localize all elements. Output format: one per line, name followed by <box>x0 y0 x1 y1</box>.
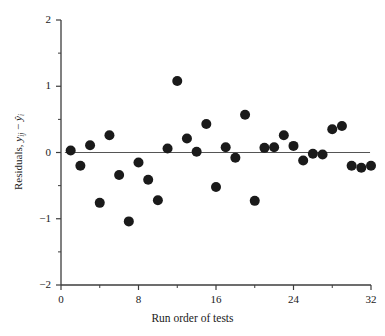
data-point <box>259 143 269 153</box>
y-axis-title-lead: Residuals, <box>12 142 24 190</box>
x-axis-tick-label: 8 <box>127 293 151 305</box>
data-point <box>221 142 231 152</box>
data-point <box>75 161 85 171</box>
x-axis-title: Run order of tests <box>0 312 385 324</box>
residual-scatter-plot-figure: −2−101208162432 Residuals, yij − ŷi Run… <box>0 0 385 336</box>
data-point <box>114 170 124 180</box>
data-point <box>289 141 299 151</box>
x-axis-tick-label: 0 <box>49 293 73 305</box>
data-point <box>240 110 250 120</box>
y-axis-title: Residuals, yij − ŷi <box>2 0 38 300</box>
plot-canvas <box>0 0 385 336</box>
data-points-group <box>66 76 376 226</box>
data-point <box>279 130 289 140</box>
data-point <box>201 119 211 129</box>
data-point <box>308 149 318 159</box>
x-axis-tick-label: 24 <box>282 293 306 305</box>
data-point <box>211 182 221 192</box>
data-point <box>124 216 134 226</box>
data-point <box>250 196 260 206</box>
y-axis-title-sub1: ij <box>17 133 26 137</box>
data-point <box>298 155 308 165</box>
data-point <box>104 130 114 140</box>
data-point <box>153 195 163 205</box>
data-point <box>95 198 105 208</box>
data-point <box>163 144 173 154</box>
data-point <box>143 175 153 185</box>
data-point <box>327 124 337 134</box>
data-point <box>192 147 202 157</box>
data-point <box>318 149 328 159</box>
y-axis-title-text: Residuals, yij − ŷi <box>12 114 26 190</box>
data-point <box>85 140 95 150</box>
y-axis-title-minus: − <box>12 121 24 130</box>
data-point <box>66 146 76 156</box>
data-point <box>134 157 144 167</box>
data-point <box>182 134 192 144</box>
x-axis-tick-label: 16 <box>204 293 228 305</box>
data-point <box>172 76 182 86</box>
y-axis-title-svg: Residuals, yij − ŷi <box>2 0 38 300</box>
data-point <box>269 142 279 152</box>
data-point <box>347 161 357 171</box>
data-point <box>366 161 376 171</box>
data-point <box>337 121 347 131</box>
y-axis-title-sub2: i <box>17 114 26 116</box>
data-point <box>230 153 240 163</box>
data-point <box>356 163 366 173</box>
x-axis-tick-label: 32 <box>359 293 383 305</box>
